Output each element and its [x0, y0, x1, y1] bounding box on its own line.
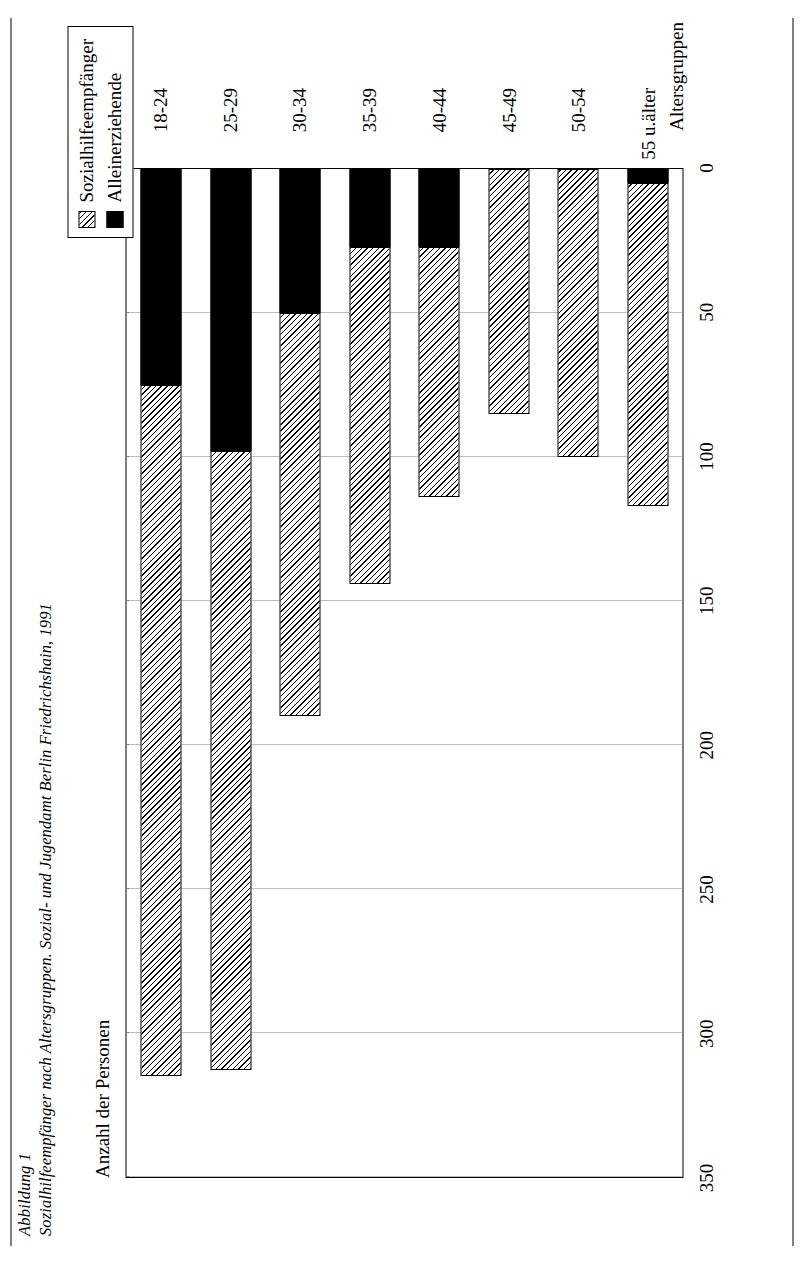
- bar-segment-alleinerziehende: [210, 169, 251, 451]
- legend-item-alleinerziehende: Alleinerziehende: [103, 39, 125, 228]
- x-axis-tick-label: 45-49: [498, 88, 520, 132]
- x-axis-title: Altersgruppen: [665, 22, 687, 131]
- y-axis-tick-label: 250: [695, 875, 717, 904]
- y-axis-tick-label: 350: [695, 1164, 717, 1193]
- y-axis-tick-label: 150: [695, 587, 717, 616]
- page-rule-bottom: [792, 18, 793, 1246]
- bar-row: [349, 169, 390, 1177]
- chart-area: Sozialhilfeempfänger Alleinerziehende An…: [61, 18, 761, 1236]
- bar-segment-sozialhilfeempfaenger: [279, 313, 320, 716]
- bar-segment-sozialhilfeempfaenger: [488, 169, 529, 414]
- x-axis-ticks: 18-2425-2930-3435-3940-4445-4950-5455 u.…: [125, 26, 683, 166]
- y-axis-tick-label: 50: [695, 303, 717, 322]
- bar-segment-alleinerziehende: [279, 169, 320, 313]
- y-axis-tick-label: 300: [695, 1019, 717, 1048]
- bar-row: [627, 169, 668, 1177]
- legend-swatch-hatched-icon: [78, 211, 95, 228]
- chart-legend: Sozialhilfeempfänger Alleinerziehende: [67, 26, 133, 238]
- bar-row: [210, 169, 251, 1177]
- bar-row: [488, 169, 529, 1177]
- bar-segment-alleinerziehende: [418, 169, 459, 247]
- page-rule-top: [10, 18, 11, 1246]
- bar-row: [557, 169, 598, 1177]
- bar-row: [279, 169, 320, 1177]
- bar-segment-sozialhilfeempfaenger: [140, 385, 181, 1076]
- y-axis-tick-label: 0: [695, 163, 717, 173]
- legend-item-sozialhilfeempfaenger: Sozialhilfeempfänger: [75, 39, 97, 228]
- bar-row: [418, 169, 459, 1177]
- y-axis-ticks: 050100150200250300350: [693, 168, 717, 1178]
- bar-row: [140, 169, 181, 1177]
- figure-number: Abbildung 1: [14, 18, 34, 1236]
- x-axis-tick-label: 35-39: [358, 88, 380, 132]
- x-axis-tick-label: 55 u.älter: [637, 88, 659, 160]
- bar-segment-sozialhilfeempfaenger: [349, 247, 390, 584]
- x-axis-tick-label: 50-54: [567, 88, 589, 132]
- y-axis-tick-label: 200: [695, 731, 717, 760]
- bar-segment-alleinerziehende: [627, 169, 668, 183]
- bar-segment-sozialhilfeempfaenger: [557, 169, 598, 457]
- x-axis-tick-label: 18-24: [149, 88, 171, 132]
- bar-segment-sozialhilfeempfaenger: [418, 247, 459, 498]
- legend-label-sozialhilfeempfaenger: Sozialhilfeempfänger: [75, 39, 97, 203]
- bar-segment-sozialhilfeempfaenger: [210, 451, 251, 1070]
- x-axis-tick-label: 30-34: [288, 88, 310, 132]
- legend-swatch-solid-icon: [106, 211, 123, 228]
- figure-page: Abbildung 1 Sozialhilfeempfänger nach Al…: [0, 0, 801, 1264]
- plot-frame: [125, 168, 683, 1178]
- x-axis-tick-label: 40-44: [428, 88, 450, 132]
- legend-label-alleinerziehende: Alleinerziehende: [103, 73, 125, 203]
- bar-segment-alleinerziehende: [140, 169, 181, 385]
- bar-segment-alleinerziehende: [349, 169, 390, 247]
- figure-caption: Sozialhilfeempfänger nach Altersgruppen.…: [35, 18, 55, 1236]
- y-axis-tick-label: 100: [695, 442, 717, 471]
- plot-area: [125, 168, 683, 1178]
- y-axis-title: Anzahl der Personen: [91, 1020, 113, 1178]
- bar-segment-sozialhilfeempfaenger: [627, 183, 668, 506]
- bar-series: [126, 169, 682, 1177]
- x-axis-tick-label: 25-29: [219, 88, 241, 132]
